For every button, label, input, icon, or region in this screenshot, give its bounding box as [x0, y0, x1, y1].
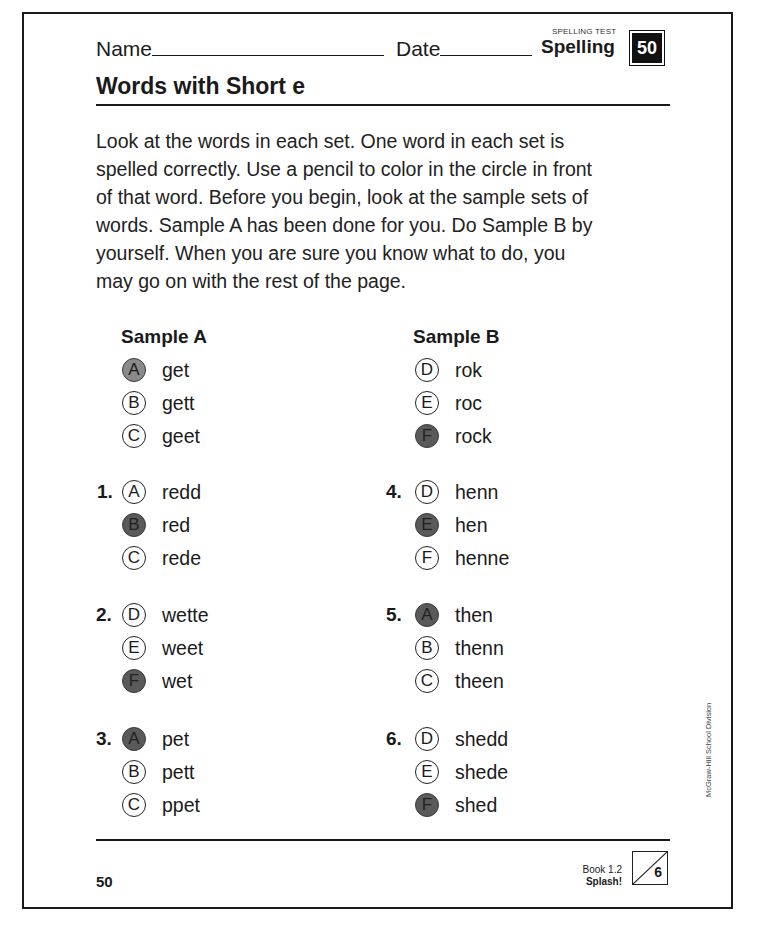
- answer-bubble[interactable]: D: [415, 480, 439, 504]
- answer-bubble[interactable]: D: [415, 727, 439, 751]
- q4-option-d[interactable]: D henn: [415, 478, 498, 506]
- q4-option-f[interactable]: F henne: [415, 544, 509, 572]
- q3-option-c[interactable]: C ppet: [122, 791, 200, 819]
- option-word: geet: [162, 425, 200, 448]
- q4-option-e[interactable]: E hen: [415, 511, 488, 539]
- q2-option-f[interactable]: F wet: [122, 667, 192, 695]
- option-word: rok: [455, 359, 482, 382]
- sample-a-heading: Sample A: [121, 326, 207, 348]
- answer-bubble[interactable]: A: [122, 358, 146, 382]
- option-word: ppet: [162, 794, 200, 817]
- option-word: get: [162, 359, 189, 382]
- question-number: 3.: [96, 728, 112, 750]
- book-info: Book 1.2 Splash!: [560, 864, 622, 888]
- title-divider: [96, 104, 670, 106]
- name-field[interactable]: Name: [96, 37, 384, 61]
- unit-box: 6: [632, 851, 668, 885]
- q6-option-e[interactable]: E shede: [415, 758, 508, 786]
- option-word: weet: [162, 637, 203, 660]
- option-word: henn: [455, 481, 498, 504]
- option-word: pett: [162, 761, 195, 784]
- name-line[interactable]: [152, 37, 384, 56]
- option-word: thenn: [455, 637, 504, 660]
- option-word: wette: [162, 604, 209, 627]
- answer-bubble[interactable]: D: [415, 358, 439, 382]
- q5-option-c[interactable]: C theen: [415, 667, 504, 695]
- option-word: henne: [455, 547, 509, 570]
- option-word: wet: [162, 670, 192, 693]
- q1-option-c[interactable]: C rede: [122, 544, 201, 572]
- test-type-label: SPELLING TEST: [552, 27, 616, 36]
- q5-option-b[interactable]: B thenn: [415, 634, 504, 662]
- sample-b-option-e[interactable]: E roc: [415, 389, 482, 417]
- q2-option-e[interactable]: E weet: [122, 634, 203, 662]
- answer-bubble[interactable]: B: [122, 391, 146, 415]
- option-word: rock: [455, 425, 492, 448]
- q1-option-a[interactable]: A redd: [122, 478, 201, 506]
- sample-b-heading: Sample B: [413, 326, 500, 348]
- question-number: 1.: [97, 481, 113, 503]
- q6-option-d[interactable]: D shedd: [415, 725, 508, 753]
- q3-option-a[interactable]: A pet: [122, 725, 189, 753]
- answer-bubble[interactable]: B: [122, 760, 146, 784]
- option-word: red: [162, 514, 190, 537]
- option-word: rede: [162, 547, 201, 570]
- sample-a-option-c[interactable]: C geet: [122, 422, 200, 450]
- date-label: Date: [396, 37, 440, 60]
- answer-bubble[interactable]: F: [415, 793, 439, 817]
- question-number: 5.: [386, 604, 402, 626]
- option-word: theen: [455, 670, 504, 693]
- question-number: 2.: [96, 604, 112, 626]
- answer-bubble[interactable]: C: [415, 669, 439, 693]
- answer-bubble[interactable]: A: [122, 480, 146, 504]
- unit-number: 6: [654, 864, 662, 880]
- option-word: roc: [455, 392, 482, 415]
- option-word: shed: [455, 794, 497, 817]
- q3-option-b[interactable]: B pett: [122, 758, 195, 786]
- publisher-credit: McGraw-Hill School Division: [704, 703, 713, 797]
- question-number: 6.: [386, 728, 402, 750]
- option-word: redd: [162, 481, 201, 504]
- option-word: gett: [162, 392, 195, 415]
- option-word: hen: [455, 514, 488, 537]
- question-number: 4.: [386, 481, 402, 503]
- answer-bubble[interactable]: C: [122, 793, 146, 817]
- book-label: Book 1.2: [560, 864, 622, 876]
- answer-bubble[interactable]: C: [122, 546, 146, 570]
- page-title: Words with Short e: [96, 73, 305, 100]
- answer-bubble[interactable]: A: [122, 727, 146, 751]
- answer-bubble[interactable]: E: [415, 391, 439, 415]
- answer-bubble[interactable]: C: [122, 424, 146, 448]
- book-title: Splash!: [586, 876, 622, 887]
- answer-bubble[interactable]: E: [415, 513, 439, 537]
- q5-option-a[interactable]: A then: [415, 601, 493, 629]
- answer-bubble[interactable]: B: [122, 513, 146, 537]
- subject-label: Spelling: [541, 36, 615, 58]
- name-label: Name: [96, 37, 152, 60]
- page-number: 50: [96, 873, 113, 890]
- option-word: shede: [455, 761, 508, 784]
- sample-a-option-b[interactable]: B gett: [122, 389, 195, 417]
- answer-bubble[interactable]: F: [415, 424, 439, 448]
- answer-bubble[interactable]: E: [415, 760, 439, 784]
- answer-bubble[interactable]: F: [122, 669, 146, 693]
- answer-bubble[interactable]: A: [415, 603, 439, 627]
- answer-bubble[interactable]: B: [415, 636, 439, 660]
- q1-option-b[interactable]: B red: [122, 511, 190, 539]
- option-word: pet: [162, 728, 189, 751]
- answer-bubble[interactable]: D: [122, 603, 146, 627]
- lesson-number-badge: 50: [632, 33, 662, 63]
- date-field[interactable]: Date: [396, 37, 532, 61]
- footer-divider: [96, 839, 670, 841]
- sample-b-option-f[interactable]: F rock: [415, 422, 492, 450]
- sample-a-option-a[interactable]: A get: [122, 356, 189, 384]
- sample-b-option-d[interactable]: D rok: [415, 356, 482, 384]
- q2-option-d[interactable]: D wette: [122, 601, 209, 629]
- answer-bubble[interactable]: F: [415, 546, 439, 570]
- option-word: shedd: [455, 728, 508, 751]
- answer-bubble[interactable]: E: [122, 636, 146, 660]
- q6-option-f[interactable]: F shed: [415, 791, 497, 819]
- date-line[interactable]: [440, 37, 532, 56]
- option-word: then: [455, 604, 493, 627]
- instructions-text: Look at the words in each set. One word …: [96, 127, 596, 295]
